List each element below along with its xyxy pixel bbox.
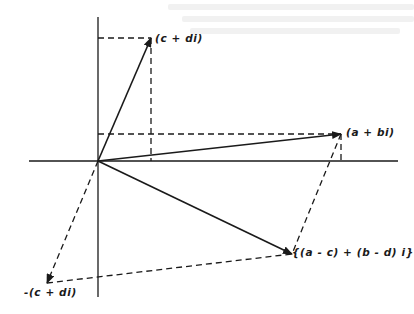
dashed-vector-neg_c_plus_di <box>47 161 98 283</box>
label-difference: {(a - c) + (b - d) i} <box>292 246 414 258</box>
vector-difference <box>98 161 292 254</box>
dashed-line <box>47 254 292 283</box>
dashed-line <box>292 134 341 254</box>
vector-c_plus_di <box>98 38 151 161</box>
diagram-canvas: (c + di) (a + bi) {(a - c) + (b - d) i} … <box>0 0 414 314</box>
label-c-plus-di: (c + di) <box>155 32 203 44</box>
label-neg-c-plus-di: -(c + di) <box>24 286 77 298</box>
label-a-plus-bi: (a + bi) <box>346 126 395 138</box>
complex-plane-plot <box>0 0 414 314</box>
vector-a_plus_bi <box>98 134 341 161</box>
